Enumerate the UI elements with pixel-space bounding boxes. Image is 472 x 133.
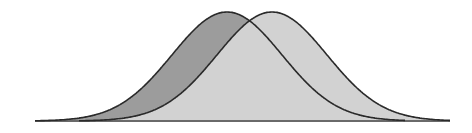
overlapping-distributions-diagram [0,0,472,133]
